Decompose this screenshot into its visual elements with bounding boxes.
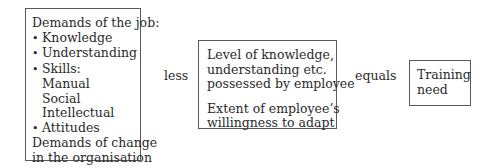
job-demands-title: Demands of the job: (32, 16, 140, 31)
list-item-attitudes: Attitudes (32, 121, 140, 137)
capability-line2: understanding etc. (207, 63, 336, 78)
sub-item-social: Social (32, 92, 140, 107)
willingness-line2: willingness to adapt (207, 116, 336, 131)
training-need-line2: need (417, 83, 470, 98)
sub-item-manual: Manual (32, 77, 140, 92)
training-need-box: Training need (409, 60, 471, 106)
capability-line3: possessed by employee (207, 77, 336, 92)
change-demands-line2: in the organisation (32, 151, 140, 166)
employee-capability-box: Level of knowledge, understanding etc. p… (198, 40, 337, 129)
training-need-line1: Training (417, 68, 470, 83)
willingness-line1: Extent of employee’s (207, 102, 336, 117)
capability-line1: Level of knowledge, (207, 48, 336, 63)
job-demands-box: Demands of the job: Knowledge Understand… (25, 8, 141, 161)
change-demands-line1: Demands of change (32, 136, 140, 151)
operator-equals: equals (355, 68, 396, 83)
list-item-skills: Skills: (32, 62, 140, 78)
sub-item-intellectual: Intellectual (32, 106, 140, 121)
list-item-knowledge: Knowledge (32, 31, 140, 47)
operator-less: less (164, 68, 188, 83)
list-item-understanding: Understanding (32, 46, 140, 62)
